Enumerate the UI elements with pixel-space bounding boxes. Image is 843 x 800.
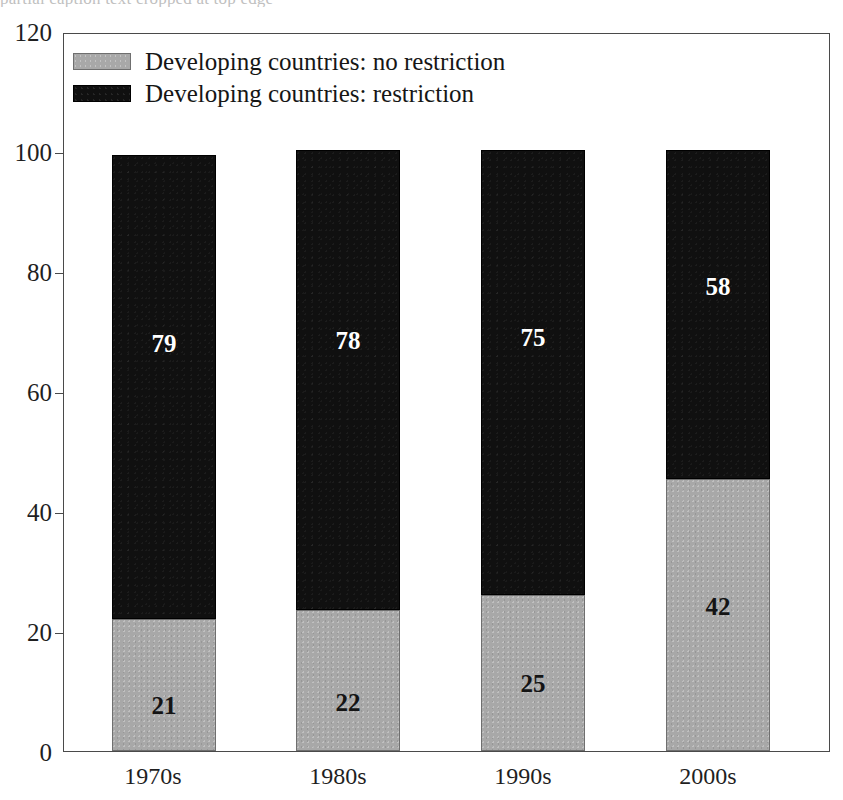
legend-item-no-restriction: Developing countries: no restriction: [73, 45, 505, 77]
bar-group-1990s: 75 25: [481, 150, 585, 751]
bar-value-restriction-1990s: 75: [521, 325, 546, 350]
bar-value-restriction-2000s: 58: [706, 274, 731, 299]
y-tick-label-120: 120: [0, 20, 52, 45]
plot-area: Developing countries: no restriction Dev…: [63, 33, 830, 752]
legend-swatch-black-icon: [73, 85, 131, 102]
bar-segment-no-restriction-1970s: 21: [112, 619, 216, 751]
x-tick-label-2000s: 2000s: [618, 764, 798, 788]
legend-label-restriction: Developing countries: restriction: [145, 81, 474, 106]
bar-segment-restriction-1970s: 79: [112, 155, 216, 619]
bar-segment-no-restriction-2000s: 42: [666, 479, 770, 751]
legend-label-no-restriction: Developing countries: no restriction: [145, 49, 505, 74]
bar-value-no-restriction-1970s: 21: [152, 693, 177, 718]
x-tick-label-1980s: 1980s: [248, 764, 428, 788]
stacked-bar-chart: 120 100 80 60 40 20 0 Developing countri…: [0, 0, 843, 800]
x-tick-label-1990s: 1990s: [433, 764, 613, 788]
y-tick-label-20: 20: [0, 620, 52, 645]
bar-segment-no-restriction-1990s: 25: [481, 595, 585, 751]
chart-legend: Developing countries: no restriction Dev…: [73, 41, 505, 109]
bar-group-1970s: 79 21: [112, 155, 216, 751]
bar-value-no-restriction-1980s: 22: [336, 690, 361, 715]
bar-value-restriction-1980s: 78: [336, 328, 361, 353]
x-tick-label-1970s: 1970s: [63, 764, 243, 788]
bar-value-restriction-1970s: 79: [152, 331, 177, 356]
bar-segment-no-restriction-1980s: 22: [296, 610, 400, 751]
bar-segment-restriction-2000s: 58: [666, 150, 770, 479]
y-tick-label-60: 60: [0, 380, 52, 405]
bar-group-1980s: 78 22: [296, 150, 400, 751]
bar-group-2000s: 58 42: [666, 150, 770, 751]
y-tick-label-0: 0: [0, 740, 52, 765]
bar-segment-restriction-1990s: 75: [481, 150, 585, 595]
bar-value-no-restriction-2000s: 42: [706, 594, 731, 619]
legend-item-restriction: Developing countries: restriction: [73, 77, 505, 109]
y-tick-label-100: 100: [0, 140, 52, 165]
bar-segment-restriction-1980s: 78: [296, 150, 400, 610]
bar-value-no-restriction-1990s: 25: [521, 671, 546, 696]
y-tick-label-40: 40: [0, 500, 52, 525]
y-tick-label-80: 80: [0, 260, 52, 285]
legend-swatch-light-gray-icon: [73, 53, 131, 70]
